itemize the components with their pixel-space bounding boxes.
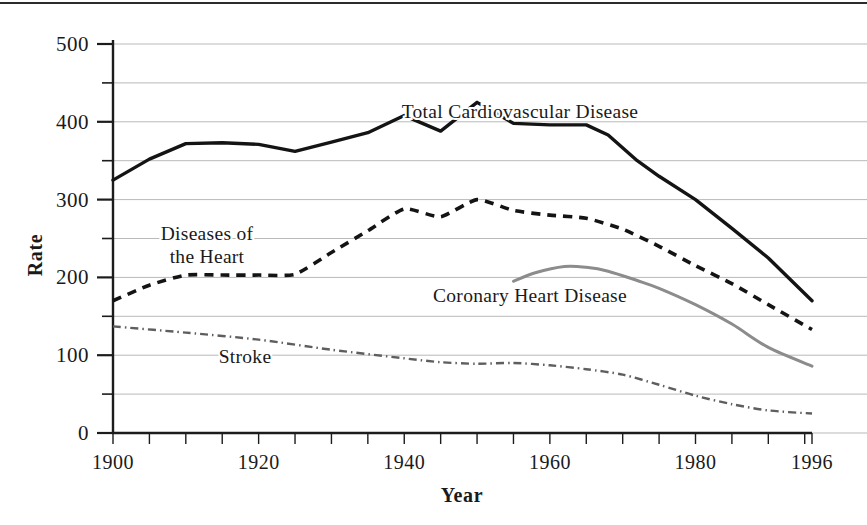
y-axis-tick-label: 100: [56, 343, 89, 367]
x-axis-tick-label: 1960: [529, 451, 571, 473]
y-axis-tick-label: 0: [78, 421, 89, 445]
y-axis-tick-label: 200: [56, 265, 89, 289]
series-line-stroke: [113, 326, 812, 413]
annotation-label: Stroke: [219, 346, 272, 367]
y-axis-title: Rate: [24, 234, 46, 276]
x-axis-tick-labels-group: 190019201940196019801996: [92, 451, 833, 473]
x-axis-tick-label: 1900: [92, 451, 134, 473]
x-axis-tick-label: 1996: [791, 451, 833, 473]
annotation-coronary-heart-disease: Coronary Heart Disease: [433, 285, 627, 306]
chart-figure: 5004003002001000 19001920194019601980199…: [0, 0, 867, 525]
y-axis-tick-label: 300: [56, 188, 89, 212]
x-axis-tick-label: 1940: [383, 451, 425, 473]
line-chart-canvas: 5004003002001000 19001920194019601980199…: [0, 0, 867, 525]
y-axis-tick-label: 500: [56, 32, 89, 56]
annotation-diseases-of-the-heart-line1: Diseases of: [161, 223, 254, 244]
x-axis-tick-label: 1980: [675, 451, 717, 473]
annotation-stroke: Stroke: [219, 346, 272, 367]
series-line-total-cardiovascular-disease: [113, 102, 812, 300]
annotation-label: Diseases of: [161, 223, 254, 244]
annotation-label: the Heart: [170, 246, 245, 267]
y-axis-ticks-group: [97, 44, 113, 433]
x-axis-ticks-group: [113, 433, 812, 444]
y-axis-tick-label: 400: [56, 110, 89, 134]
annotation-label: Total Cardiovascular Disease: [402, 101, 639, 122]
annotation-label: Coronary Heart Disease: [433, 285, 627, 306]
series-annotations-group: Total Cardiovascular DiseaseDiseases oft…: [161, 101, 639, 367]
x-axis-tick-label: 1920: [238, 451, 280, 473]
y-axis-tick-labels-group: 5004003002001000: [56, 32, 89, 445]
annotation-diseases-of-the-heart-line2: the Heart: [170, 246, 245, 267]
x-axis-title: Year: [441, 484, 483, 506]
annotation-total-cardiovascular-disease: Total Cardiovascular Disease: [402, 101, 639, 122]
